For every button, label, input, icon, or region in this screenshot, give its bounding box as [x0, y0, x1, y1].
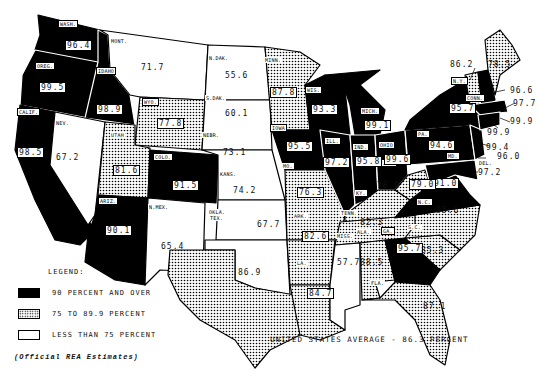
- state-value-miss: 57.7: [337, 258, 360, 267]
- state-label-ark: ARK.: [293, 213, 308, 219]
- state-value-nev: 67.2: [56, 153, 79, 162]
- state-value-ariz: 90.1: [105, 225, 132, 236]
- state-label-mont: MONT.: [110, 38, 128, 44]
- black-swatch-icon: [18, 288, 40, 298]
- state-label-utah: UTAH: [110, 132, 125, 138]
- state-value-kans: 74.2: [233, 186, 256, 195]
- state-label-tex: TEX.: [209, 215, 224, 221]
- state-label-mo: MO.: [282, 163, 294, 169]
- state-label-nmex: N.MEX.: [148, 204, 169, 210]
- state-ark: [287, 240, 335, 285]
- us-average-note: UNITED STATES AVERAGE - 86.3 PERCENT: [270, 335, 469, 344]
- state-value-nc: 85.6: [436, 206, 459, 215]
- state-value-ill: 97.2: [323, 157, 350, 168]
- state-value-conn: 99.9: [487, 128, 510, 137]
- state-value-vt: 86.2: [450, 60, 473, 69]
- state-value-calif: 98.5: [17, 147, 44, 158]
- state-value-maine: 78.5: [488, 60, 511, 69]
- state-value-wyo: 77.8: [157, 118, 184, 129]
- state-value-iowa: 95.5: [286, 141, 313, 152]
- state-value-ky: 78.0: [377, 181, 400, 190]
- state-label-md: MD.: [446, 152, 460, 160]
- state-value-ri: 99.9: [510, 117, 533, 126]
- state-label-ariz: ARIZ.: [98, 197, 118, 205]
- state-label-mich: MICH.: [360, 107, 380, 115]
- state-value-oreg: 99.5: [39, 82, 66, 93]
- state-label-wis: WIS.: [305, 86, 322, 94]
- state-label-nc: N.C.: [417, 199, 432, 205]
- legend-label: 90 PERCENT AND OVER: [52, 289, 151, 297]
- state-label-calif: CALIF.: [17, 108, 40, 116]
- state-value-ala: 88.5: [360, 258, 383, 267]
- legend-label: LESS THAN 75 PERCENT: [52, 331, 156, 339]
- legend-label: 75 TO 89.9 PERCENT: [52, 310, 146, 318]
- state-value-mich: 99.1: [364, 120, 391, 131]
- state-value-utah: 81.6: [113, 165, 140, 176]
- state-value-md: 97.2: [478, 168, 501, 177]
- state-label-ga: GA.: [381, 227, 395, 235]
- state-label-ohio: OHIO: [378, 141, 395, 149]
- state-value-ohio: 99.6: [384, 154, 411, 165]
- state-value-fla: 87.1: [423, 302, 446, 311]
- legend-title: LEGEND:: [48, 268, 156, 276]
- legend-item-75-89: 75 TO 89.9 PERCENT: [18, 303, 156, 324]
- state-label-tenn: TENN.: [340, 210, 358, 216]
- state-label-sc: S.C.: [407, 224, 422, 230]
- state-label-la: LA.: [296, 260, 308, 266]
- state-label-sdak: S.DAK.: [205, 95, 226, 101]
- state-value-ndak: 55.6: [225, 71, 248, 80]
- state-label-idaho: IDAHO: [96, 67, 116, 75]
- state-label-ky: KY.: [355, 190, 367, 196]
- state-value-sc: 85.3: [421, 246, 444, 255]
- state-value-la: 84.7: [307, 288, 334, 299]
- source-note: (Official REA Estimates): [14, 353, 139, 361]
- state-label-minn: MINN.: [264, 57, 282, 63]
- state-label-ill: ILL.: [324, 137, 341, 145]
- state-value-del: 96.0: [497, 152, 520, 161]
- state-value-nj: 99.4: [486, 143, 509, 152]
- state-value-ny: 95.7: [449, 103, 476, 114]
- state-label-ndak: N.DAK.: [208, 55, 229, 61]
- state-value-idaho: 98.9: [96, 104, 123, 115]
- state-label-miss: MISS.: [336, 233, 354, 239]
- state-value-tex: 86.9: [238, 268, 261, 277]
- state-value-nh: 96.6: [510, 86, 533, 95]
- state-value-ga: 95.7: [396, 243, 423, 254]
- state-value-okla: 67.7: [257, 220, 280, 229]
- state-miss: [330, 243, 360, 330]
- state-value-ind: 95.8: [355, 156, 382, 167]
- state-label-ala: ALA.: [356, 229, 371, 235]
- state-label-colo: COLO.: [153, 153, 173, 161]
- state-value-wash: 96.4: [65, 40, 92, 51]
- state-value-wis: 93.3: [311, 104, 338, 115]
- state-value-mass: 97.7: [513, 99, 536, 108]
- state-label-oreg: OREG.: [35, 62, 55, 70]
- state-label-wash: WASH.: [58, 20, 78, 28]
- white-swatch-icon: [18, 330, 40, 340]
- state-label-nebr: NEBR.: [202, 132, 220, 138]
- state-value-sdak: 60.1: [225, 109, 248, 118]
- legend-item-under-75: LESS THAN 75 PERCENT: [18, 324, 156, 345]
- state-label-nev: NEV.: [55, 120, 70, 126]
- state-label-conn: CONN.: [465, 94, 485, 102]
- state-value-tenn: 82.3: [360, 218, 383, 227]
- state-value-nebr: 73.1: [223, 148, 246, 157]
- state-value-pa: 94.6: [428, 140, 455, 151]
- state-value-mont: 71.7: [141, 63, 164, 72]
- state-value-minn: 87.8: [270, 87, 297, 98]
- state-sdak: [202, 100, 272, 150]
- state-label-iowa: IOWA: [270, 124, 287, 132]
- state-value-wva: 79.0: [409, 179, 436, 190]
- state-label-ny: N.Y.: [451, 77, 468, 85]
- state-label-kans: KANS.: [219, 171, 237, 177]
- state-label-pa: PA.: [416, 130, 430, 138]
- state-value-nmex: 65.4: [161, 242, 184, 251]
- state-label-del: DEL.: [478, 160, 493, 166]
- state-label-fla: FLA.: [370, 280, 385, 286]
- state-label-wyo: WYO.: [142, 98, 159, 106]
- state-label-ind: IND.: [352, 143, 369, 151]
- state-value-ark: 82.6: [302, 231, 329, 242]
- dotted-swatch-icon: [18, 309, 40, 319]
- legend-item-90-plus: 90 PERCENT AND OVER: [18, 282, 156, 303]
- state-value-colo: 91.5: [172, 180, 199, 191]
